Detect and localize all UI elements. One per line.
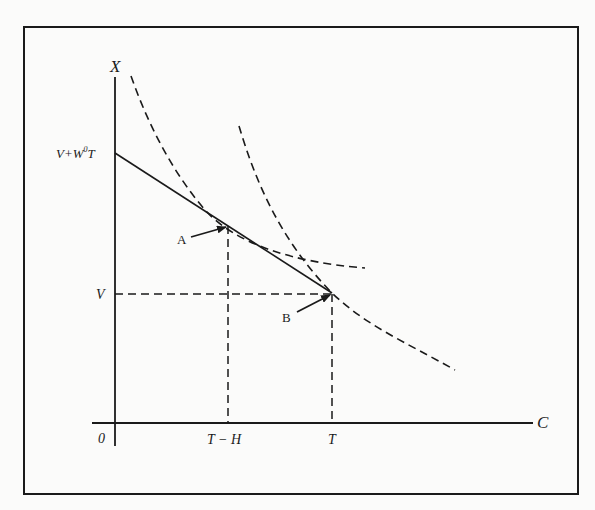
y-tick-v-plus-w0t: V+W0T [56, 145, 96, 161]
point-b-arrow [297, 295, 330, 312]
indifference-curve-2 [239, 126, 455, 370]
y-tick-v: V [96, 287, 106, 302]
x-tick-t-minus-h: T − H [207, 432, 242, 447]
x-axis-label: C [537, 413, 549, 432]
labour-leisure-diagram: X C 0 V+W0T V T − H T A B [0, 0, 595, 510]
point-b-label: B [282, 310, 291, 325]
origin-label: 0 [98, 431, 105, 446]
x-tick-t: T [328, 432, 337, 447]
figure-frame [24, 27, 578, 494]
y-axis-label: X [109, 57, 121, 76]
point-a-label: A [177, 232, 187, 247]
point-a-arrow [191, 227, 226, 237]
budget-line [115, 153, 332, 293]
